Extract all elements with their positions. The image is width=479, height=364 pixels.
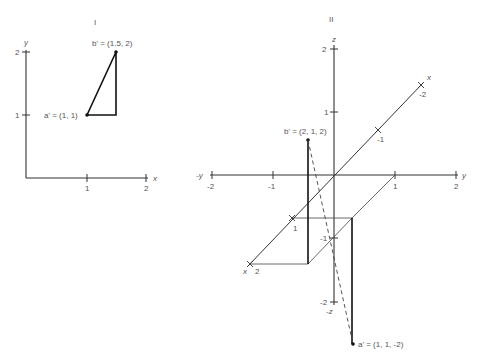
point-a [85, 113, 89, 117]
point-b-label: b' = (1.5, 2) [92, 39, 133, 48]
z-axis-label: z [331, 35, 336, 44]
x-tick-label-neg2: -2 [419, 90, 427, 99]
x-tick-label-1: 1 [85, 184, 90, 193]
neg-z-axis-label: -z [326, 307, 333, 316]
z-tick-label-1: 1 [324, 108, 329, 117]
y-axis-label: y [23, 38, 29, 47]
point-a-3d-label: a' = (1, 1, -2) [358, 340, 404, 349]
diagram-canvas: I 2 1 y 1 2 x a' = (1, 1) b' = (1.5, 2) … [0, 0, 479, 364]
z-tick-label-2: 2 [322, 45, 327, 54]
point-b [114, 50, 118, 54]
y-tick-label-2: 2 [15, 48, 20, 57]
z-tick-label-neg1: -1 [320, 234, 328, 243]
y-tick-label-2: 2 [454, 182, 459, 191]
y-tick-label-neg1: -1 [268, 182, 276, 191]
x-tick-label-2: 2 [255, 267, 260, 276]
figure-right: II 2 1 -1 -2 z -z -2 -1 1 2 -y y -2 [196, 15, 467, 349]
x-axis-label: x [152, 174, 158, 183]
x-tick-label-neg1: -1 [377, 135, 385, 144]
x-axis-label-3d: x [426, 73, 432, 82]
x-tick-label-2: 2 [144, 184, 149, 193]
x-axis-label-3d-pos: x [242, 267, 248, 276]
y-tick-label-neg2: -2 [207, 182, 215, 191]
y-tick-label-1: 1 [393, 182, 398, 191]
point-a-label: a' = (1, 1) [44, 111, 78, 120]
figure-right-title: II [329, 15, 333, 24]
triangle [87, 52, 116, 115]
z-tick-label-neg2: -2 [320, 298, 328, 307]
y-tick-label-1: 1 [15, 111, 20, 120]
y-axis-label-3d: y [461, 171, 467, 180]
figure-left-title: I [94, 18, 96, 27]
figure-left: I 2 1 y 1 2 x a' = (1, 1) b' = (1.5, 2) [15, 18, 158, 193]
x-tick-label-1: 1 [293, 224, 298, 233]
neg-y-axis-label: -y [196, 171, 204, 180]
point-b-3d-label: b' = (2, 1, 2) [284, 127, 327, 136]
